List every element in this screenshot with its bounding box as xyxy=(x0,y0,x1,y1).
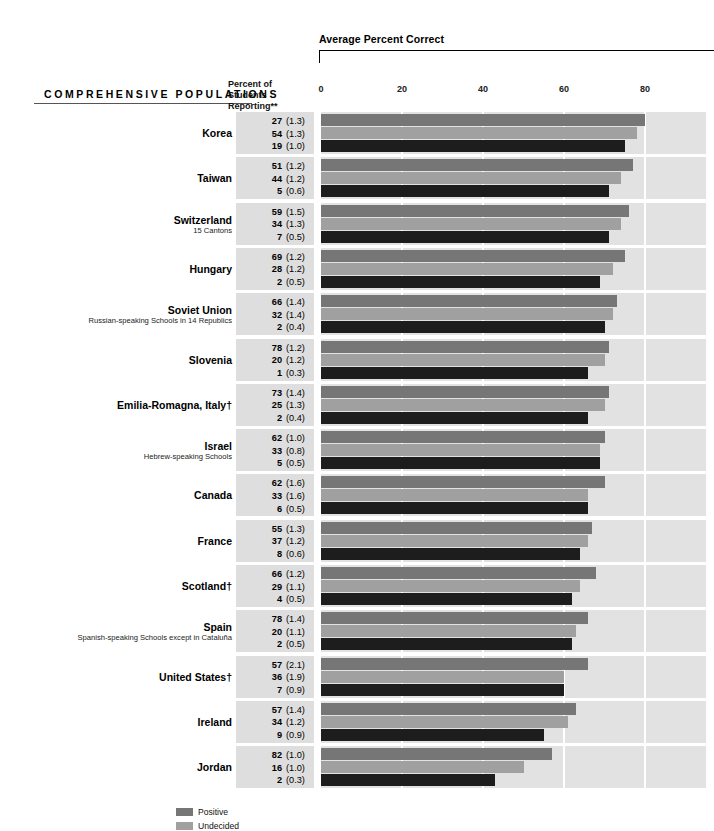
percent-reporting-value: 78(1.4) xyxy=(236,613,312,625)
gridline-80 xyxy=(644,656,646,698)
country-label: Jordan xyxy=(20,761,232,773)
bar-undecided xyxy=(321,399,605,411)
reporting-percent: 32 xyxy=(272,310,282,320)
country-name: Hungary xyxy=(20,263,232,275)
percent-reporting-cell: 69(1.2)28(1.2)2(0.5) xyxy=(236,248,314,290)
reporting-standard-error: (1.2) xyxy=(282,354,312,366)
percent-reporting-value: 55(1.3) xyxy=(236,523,312,535)
reporting-standard-error: (1.4) xyxy=(282,387,312,399)
percent-reporting-value: 62(1.6) xyxy=(236,477,312,489)
gridline-80 xyxy=(644,248,646,290)
reporting-standard-error: (0.4) xyxy=(282,321,312,333)
reporting-percent: 37 xyxy=(272,536,282,546)
percent-reporting-value: 62(1.0) xyxy=(236,432,312,444)
gridline-80 xyxy=(644,203,646,245)
reporting-standard-error: (1.3) xyxy=(282,218,312,230)
country-label: Scotland† xyxy=(20,580,232,592)
bar-negative xyxy=(321,457,600,469)
reporting-percent: 62 xyxy=(272,433,282,443)
reporting-standard-error: (1.6) xyxy=(282,477,312,489)
legend-label: Positive xyxy=(198,807,228,817)
percent-reporting-value: 34(1.3) xyxy=(236,218,312,230)
reporting-standard-error: (1.2) xyxy=(282,716,312,728)
gridline-80 xyxy=(644,474,646,516)
bar-positive xyxy=(321,658,588,670)
percent-reporting-value: 29(1.1) xyxy=(236,581,312,593)
reporting-standard-error: (1.2) xyxy=(282,342,312,354)
reporting-standard-error: (1.2) xyxy=(282,160,312,172)
gridline-80 xyxy=(644,339,646,381)
chart-row: Jordan82(1.0)16(1.0)2(0.3) xyxy=(0,746,714,788)
country-name: Korea xyxy=(20,127,232,139)
percent-reporting-value: 4(0.5) xyxy=(236,593,312,605)
reporting-percent: 62 xyxy=(272,478,282,488)
plot-band xyxy=(321,384,706,426)
reporting-standard-error: (1.2) xyxy=(282,251,312,263)
gridline-80 xyxy=(644,746,646,788)
bar-negative xyxy=(321,367,588,379)
reporting-standard-error: (0.5) xyxy=(282,457,312,469)
plot-band xyxy=(321,112,706,154)
percent-reporting-value: 2(0.5) xyxy=(236,276,312,288)
country-sublabel: Russian-speaking Schools in 14 Republics xyxy=(20,316,232,325)
chart-row: SpainSpanish-speaking Schools except in … xyxy=(0,610,714,652)
percent-reporting-value: 5(0.6) xyxy=(236,185,312,197)
plot-band xyxy=(321,701,706,743)
country-label: France xyxy=(20,535,232,547)
percent-reporting-value: 34(1.2) xyxy=(236,716,312,728)
bar-undecided xyxy=(321,761,524,773)
plot-band xyxy=(321,157,706,199)
bar-positive xyxy=(321,114,645,126)
x-tick-label-40: 40 xyxy=(478,84,488,94)
percent-reporting-value: 59(1.5) xyxy=(236,206,312,218)
reporting-percent: 73 xyxy=(272,388,282,398)
percent-reporting-cell: 82(1.0)16(1.0)2(0.3) xyxy=(236,746,314,788)
country-name: Scotland† xyxy=(20,580,232,592)
bar-positive xyxy=(321,522,592,534)
country-name: Canada xyxy=(20,489,232,501)
x-tick-label-60: 60 xyxy=(559,84,569,94)
reporting-standard-error: (0.9) xyxy=(282,684,312,696)
bar-positive xyxy=(321,567,596,579)
country-name: Taiwan xyxy=(20,172,232,184)
reporting-percent: 54 xyxy=(272,129,282,139)
country-name: Ireland xyxy=(20,716,232,728)
reporting-standard-error: (1.3) xyxy=(282,115,312,127)
percent-reporting-cell: 66(1.4)32(1.4)2(0.4) xyxy=(236,293,314,335)
country-label: Taiwan xyxy=(20,172,232,184)
reporting-percent: 55 xyxy=(272,524,282,534)
percent-reporting-cell: 73(1.4)25(1.3)2(0.4) xyxy=(236,384,314,426)
chart-row: Scotland†66(1.2)29(1.1)4(0.5) xyxy=(0,565,714,607)
country-name: France xyxy=(20,535,232,547)
reporting-standard-error: (1.0) xyxy=(282,140,312,152)
bar-undecided xyxy=(321,580,580,592)
reporting-percent: 66 xyxy=(272,569,282,579)
percent-reporting-cell: 78(1.4)20(1.1)2(0.5) xyxy=(236,610,314,652)
percent-reporting-cell: 62(1.6)33(1.6)6(0.5) xyxy=(236,474,314,516)
plot-band xyxy=(321,293,706,335)
reporting-standard-error: (1.5) xyxy=(282,206,312,218)
reporting-standard-error: (0.5) xyxy=(282,503,312,515)
bar-positive xyxy=(321,295,617,307)
reporting-standard-error: (0.5) xyxy=(282,593,312,605)
percent-reporting-value: 2(0.5) xyxy=(236,638,312,650)
percent-reporting-value: 27(1.3) xyxy=(236,115,312,127)
gridline-80 xyxy=(644,429,646,471)
reporting-standard-error: (1.2) xyxy=(282,263,312,275)
reporting-standard-error: (0.3) xyxy=(282,774,312,786)
plot-band xyxy=(321,565,706,607)
x-tick-label-20: 20 xyxy=(397,84,407,94)
percent-reporting-value: 1(0.3) xyxy=(236,367,312,379)
x-tick-label-80: 80 xyxy=(640,84,650,94)
reporting-percent: 20 xyxy=(272,355,282,365)
percent-reporting-value: 9(0.9) xyxy=(236,729,312,741)
reporting-percent: 69 xyxy=(272,252,282,262)
reporting-standard-error: (1.4) xyxy=(282,704,312,716)
percent-reporting-value: 20(1.2) xyxy=(236,354,312,366)
percent-reporting-value: 25(1.3) xyxy=(236,399,312,411)
chart-row: Hungary69(1.2)28(1.2)2(0.5) xyxy=(0,248,714,290)
percent-reporting-value: 19(1.0) xyxy=(236,140,312,152)
percent-reporting-cell: 55(1.3)37(1.2)8(0.6) xyxy=(236,520,314,562)
percent-reporting-value: 37(1.2) xyxy=(236,535,312,547)
country-name: Israel xyxy=(20,440,232,452)
